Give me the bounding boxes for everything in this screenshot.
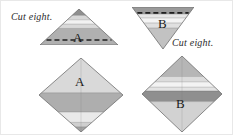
caption-cut-eight-right: Cut eight. [172, 37, 213, 48]
piece-label-a-diamond: A [75, 74, 84, 90]
unit-b-diamond [142, 56, 222, 132]
stripe-band [40, 24, 118, 28]
caption-cut-eight-left: Cut eight. [11, 11, 52, 22]
unit-a-diamond [39, 58, 123, 132]
quilt-piecing-diagram: Cut eight. Cut eight. A B A B [0, 0, 233, 135]
piece-label-a-triangle: A [73, 30, 82, 46]
piece-label-b-diamond: B [176, 96, 185, 112]
piece-label-b-triangle: B [158, 16, 167, 32]
